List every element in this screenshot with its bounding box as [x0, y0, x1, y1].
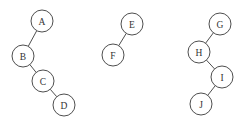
edge-G-H	[206, 33, 214, 43]
node-label: C	[40, 77, 46, 87]
node-label: I	[220, 73, 223, 83]
node-label: H	[196, 48, 203, 58]
node-B: B	[12, 45, 34, 67]
node-F: F	[102, 44, 124, 66]
node-E: E	[121, 13, 143, 35]
node-label: B	[20, 52, 26, 62]
node-G: G	[209, 13, 231, 35]
edge-E-F	[119, 33, 127, 45]
node-C: C	[32, 70, 54, 92]
edge-A-B	[28, 31, 37, 47]
node-A: A	[31, 10, 53, 32]
edge-H-I	[206, 60, 214, 69]
edge-B-C	[30, 65, 36, 73]
nodes-layer: ABCDEFGHIJ	[12, 10, 233, 116]
node-label: J	[199, 100, 203, 110]
tree-2-edges	[119, 33, 127, 45]
node-label: F	[110, 51, 115, 61]
node-label: G	[217, 20, 224, 30]
node-J: J	[190, 93, 212, 115]
node-H: H	[188, 41, 210, 63]
edge-C-D	[50, 89, 57, 96]
tree-3-edges	[206, 33, 216, 96]
node-label: E	[129, 20, 135, 30]
edges-layer	[28, 31, 215, 97]
node-I: I	[211, 66, 233, 88]
tree-diagram: ABCDEFGHIJ	[0, 0, 242, 128]
node-label: D	[61, 101, 68, 111]
tree-1: ABCD	[12, 10, 75, 116]
node-D: D	[53, 94, 75, 116]
node-label: A	[39, 17, 46, 27]
edge-I-J	[208, 86, 215, 96]
